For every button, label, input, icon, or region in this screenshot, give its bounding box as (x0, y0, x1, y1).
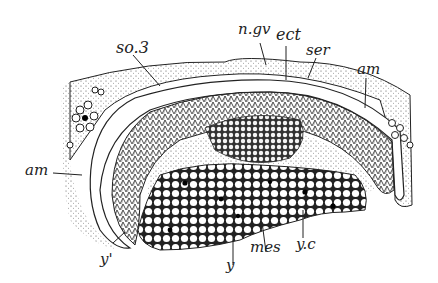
embryo-section-drawing (0, 0, 438, 283)
label-am-left: am (25, 163, 48, 178)
label-y-prime: y' (100, 252, 113, 267)
label-mes: mes (250, 240, 281, 255)
label-am-right: am (357, 62, 380, 77)
label-ngv: n.gv (238, 22, 271, 37)
label-so3: so.3 (116, 40, 149, 56)
label-ser: ser (306, 43, 330, 58)
label-y: y (226, 258, 234, 273)
label-yc: y.c (296, 237, 316, 252)
label-ect: ect (276, 27, 301, 43)
